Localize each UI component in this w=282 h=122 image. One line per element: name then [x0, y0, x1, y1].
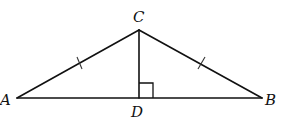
triangle-diagram: A B C D	[0, 0, 282, 122]
point-label-c: C	[133, 8, 145, 26]
point-label-b: B	[264, 91, 276, 109]
segment-ac	[17, 30, 139, 98]
point-label-a: A	[0, 91, 11, 109]
right-angle-marker	[139, 83, 153, 98]
point-label-d: D	[130, 103, 143, 121]
